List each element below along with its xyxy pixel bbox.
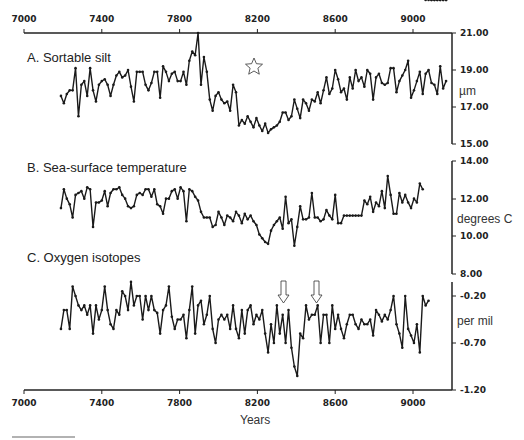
y-tick-label: 12.00 bbox=[460, 194, 488, 204]
x-tick-label: 8200 bbox=[245, 14, 270, 24]
panel-c-title: C. Oxygen isotopes bbox=[27, 250, 141, 265]
x-tick-label: 7400 bbox=[89, 398, 114, 408]
star-icon bbox=[246, 58, 263, 74]
bottom-x-axis: 700074007800820086009000 bbox=[11, 390, 452, 408]
paleoclimate-chart: 700074007800820086009000 700074007800820… bbox=[0, 0, 524, 440]
x-tick-label: 8600 bbox=[323, 14, 348, 24]
x-tick-label: 7000 bbox=[11, 14, 36, 24]
y-tick-label: -0.70 bbox=[460, 338, 486, 348]
down-arrow-icon bbox=[311, 281, 322, 303]
panel-b-title: B. Sea-surface temperature bbox=[27, 160, 187, 175]
series-a-line bbox=[60, 32, 448, 135]
x-tick-label: 7000 bbox=[11, 398, 36, 408]
unit-b: degrees C bbox=[457, 212, 513, 226]
top-x-axis: 700074007800820086009000 bbox=[11, 14, 452, 33]
x-tick-label: 9000 bbox=[400, 398, 425, 408]
y-axis-c: -0.20-0.70-1.20 bbox=[452, 282, 486, 395]
down-arrow-icon bbox=[278, 281, 289, 303]
series-b-line bbox=[60, 0, 448, 247]
y-tick-label: 21.00 bbox=[460, 28, 488, 38]
unit-a: µm bbox=[459, 84, 476, 98]
y-tick-label: 19.00 bbox=[460, 65, 488, 75]
y-tick-label: 15.00 bbox=[460, 139, 488, 149]
y-tick-label: 8.00 bbox=[460, 269, 482, 279]
x-axis-label: Years bbox=[240, 413, 270, 427]
y-tick-label: -0.20 bbox=[460, 291, 486, 301]
x-tick-label: 7800 bbox=[167, 14, 192, 24]
x-tick-label: 9000 bbox=[400, 14, 425, 24]
x-tick-label: 8600 bbox=[323, 398, 348, 408]
unit-c: per mil bbox=[457, 314, 493, 328]
x-tick-label: 7400 bbox=[89, 14, 114, 24]
y-tick-label: 14.00 bbox=[460, 156, 488, 166]
x-tick-label: 8200 bbox=[245, 398, 270, 408]
y-tick-label: -1.20 bbox=[460, 385, 486, 395]
panel-a-title: A. Sortable silt bbox=[27, 50, 111, 65]
y-tick-label: 10.00 bbox=[460, 231, 488, 241]
x-tick-label: 7800 bbox=[167, 398, 192, 408]
y-tick-label: 17.00 bbox=[460, 102, 488, 112]
